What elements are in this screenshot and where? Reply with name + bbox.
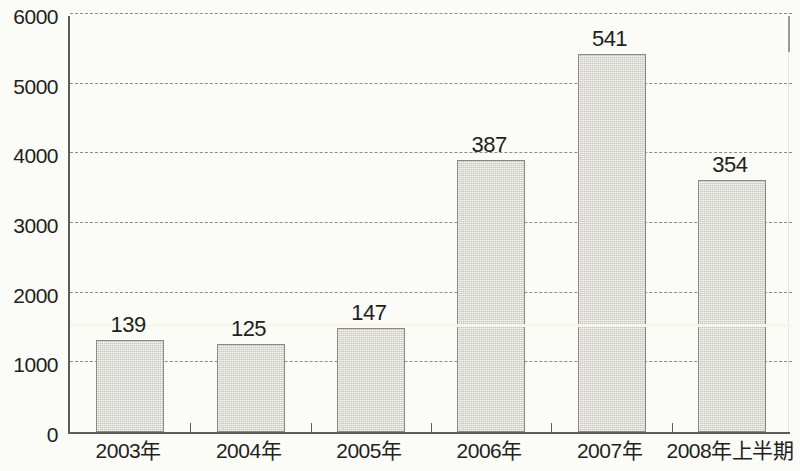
x-axis-label: 2003年 [96, 440, 161, 461]
bar-value-label: 125 [231, 318, 266, 340]
x-axis-label: 2005年 [336, 440, 401, 461]
bar-value-label: 541 [592, 28, 627, 50]
bar [337, 328, 405, 433]
bar-value-label: 387 [472, 134, 507, 156]
bar-value-label: 354 [712, 154, 747, 176]
y-tick-label: 4000 [0, 145, 58, 166]
gridline-2000 [70, 292, 792, 293]
x-axis-label: 2004年 [216, 440, 281, 461]
y-tick-label: 2000 [0, 284, 58, 305]
bar [578, 54, 646, 432]
gridline-4000 [70, 152, 792, 153]
x-tick-mark [672, 423, 673, 433]
bar [217, 344, 285, 432]
gridline-3000 [70, 222, 792, 223]
bar-value-label: 147 [351, 302, 386, 324]
x-tick-mark [311, 423, 312, 433]
bar [698, 180, 766, 432]
x-axis-label: 2008年上半期 [666, 440, 793, 461]
y-tick-label: 1000 [0, 354, 58, 375]
gridline-5000 [70, 83, 792, 84]
x-axis-label: 2006年 [457, 440, 522, 461]
y-tick-label: 3000 [0, 215, 58, 236]
bar-chart-figure: 0100020003000400050006000 13912514738754… [0, 0, 800, 471]
gridline-6000 [70, 13, 792, 14]
y-tick-label: 0 [0, 424, 58, 445]
x-axis-label: 2007年 [577, 440, 642, 461]
bar [96, 340, 164, 432]
y-tick-label: 5000 [0, 75, 58, 96]
x-tick-mark [431, 423, 432, 433]
x-tick-mark [551, 423, 552, 433]
x-tick-mark [190, 423, 191, 433]
bar [457, 160, 525, 432]
gridline-1000 [70, 361, 792, 362]
scan-artifact-line [70, 324, 792, 327]
plot-area [68, 16, 790, 434]
y-tick-label: 6000 [0, 6, 58, 27]
bar-value-label: 139 [111, 314, 146, 336]
